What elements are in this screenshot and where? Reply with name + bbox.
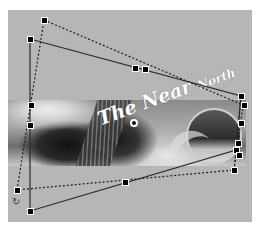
dashed-transform-outline [17,20,243,190]
handle-dashed-right-mid[interactable] [235,140,242,147]
handle-solid-top-mid[interactable] [132,65,139,72]
handle-dashed-top-mid[interactable] [142,66,149,73]
handle-solid-left-mid[interactable] [27,122,34,129]
handle-dashed-right-lower[interactable] [236,152,243,159]
handle-dashed-left-mid[interactable] [28,102,35,109]
handle-dashed-bottom-left[interactable] [14,187,21,194]
handle-solid-top-left[interactable] [27,36,34,43]
handle-dashed-top-right[interactable] [241,102,248,109]
transform-overlay [0,0,264,231]
transform-center-marker[interactable] [130,119,138,127]
handle-solid-right-mid[interactable] [238,120,245,127]
handle-solid-bottom-mid[interactable] [122,179,129,186]
handle-dashed-top-left[interactable] [41,17,48,24]
handle-solid-top-right[interactable] [238,93,245,100]
handle-solid-bottom-left[interactable] [27,208,34,215]
rotate-cursor-icon: ↻ [12,196,20,207]
handle-dashed-bottom-right[interactable] [231,167,238,174]
